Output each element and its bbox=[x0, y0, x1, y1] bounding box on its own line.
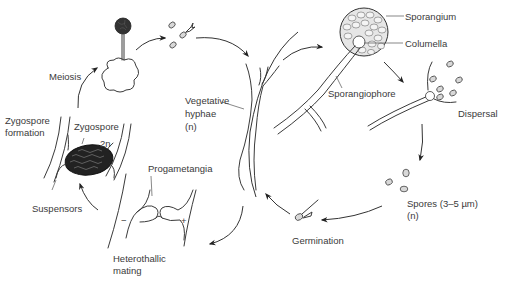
arrow-to-dispersal bbox=[384, 62, 403, 82]
label-sporangiophore: Sporangiophore bbox=[328, 88, 396, 99]
label-minus: − bbox=[121, 215, 127, 226]
leader-zygospore bbox=[82, 138, 84, 144]
arrow-to-spores-bottom bbox=[420, 124, 423, 160]
label-zygospore: Zygospore bbox=[74, 121, 119, 132]
label-vegetative-1: Vegetative bbox=[185, 95, 229, 106]
arrow-to-hyphae bbox=[196, 38, 248, 56]
cycle-arc-left bbox=[249, 32, 298, 197]
leader-progametangia bbox=[151, 176, 152, 196]
label-dispersal: Dispersal bbox=[458, 108, 498, 119]
label-suspensors: Suspensors bbox=[32, 203, 82, 214]
germ-sporangium bbox=[102, 18, 139, 92]
leader-sporangiophore bbox=[336, 76, 342, 88]
label-germination: Germination bbox=[292, 235, 344, 246]
zygomycete-life-cycle-diagram: Meiosis Vegetative hyphae (n) bbox=[0, 0, 508, 284]
label-2n: 2n bbox=[100, 138, 111, 149]
released-spores bbox=[168, 21, 195, 49]
vegetative-hyphae bbox=[239, 64, 279, 190]
arrow-to-germination bbox=[322, 206, 382, 220]
progametangia bbox=[108, 174, 196, 248]
label-zygospore-formation-1: Zygospore bbox=[5, 115, 50, 126]
spores bbox=[385, 169, 410, 192]
label-zygospore-formation-2: formation bbox=[5, 127, 45, 138]
label-meiosis: Meiosis bbox=[49, 71, 81, 82]
label-columella: Columella bbox=[405, 38, 448, 49]
label-vegetative-2: hyphae bbox=[185, 108, 216, 119]
arrow-to-zygospore bbox=[80, 184, 98, 210]
arrow-to-vegetative bbox=[266, 194, 290, 214]
sporangium bbox=[340, 8, 388, 56]
label-heterothallic-2: mating bbox=[113, 265, 142, 276]
arrow-to-mating bbox=[210, 206, 243, 244]
germinating-spore-tube bbox=[186, 23, 195, 32]
label-plus: + bbox=[181, 215, 187, 226]
label-spores-1: Spores (3–5 µm) bbox=[407, 198, 478, 209]
label-heterothallic-1: Heterothallic bbox=[113, 253, 166, 264]
label-spores-2: (n) bbox=[407, 210, 419, 221]
label-sporangium: Sporangium bbox=[405, 11, 456, 22]
germinating-spore bbox=[294, 200, 318, 222]
label-progametangia: Progametangia bbox=[148, 163, 213, 174]
arrow-to-sporangium bbox=[283, 47, 322, 60]
label-vegetative-3: (n) bbox=[185, 121, 197, 132]
arrow-to-spores bbox=[136, 38, 165, 50]
